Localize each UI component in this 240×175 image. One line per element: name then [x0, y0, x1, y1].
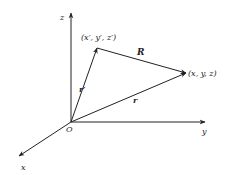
r-vector-label: r — [133, 95, 138, 105]
diagram-canvas: z y x O (x′, y′, z′) (x, y, z) R r′ r — [0, 0, 240, 175]
z-axis-label: z — [59, 13, 65, 22]
r-prime-vector-label: r′ — [79, 84, 86, 94]
coordinate-diagram: z y x O (x′, y′, z′) (x, y, z) R r′ r — [0, 0, 240, 175]
y-axis-label: y — [201, 127, 207, 136]
x-axis — [19, 122, 71, 156]
x-axis-label: x — [21, 163, 26, 172]
r-vector — [71, 73, 186, 122]
origin-label: O — [66, 125, 73, 134]
source-point-label: (x′, y′, z′) — [81, 33, 116, 42]
field-point-label: (x, y, z) — [188, 69, 217, 78]
R-vector-label: R — [136, 47, 145, 57]
